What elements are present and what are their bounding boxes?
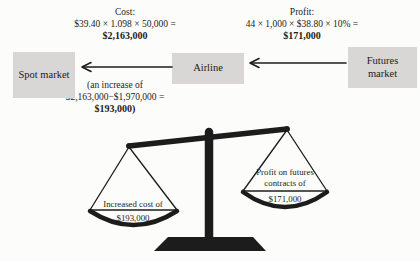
right-pan-text-line2: contracts of <box>264 178 305 188</box>
hedging-figure: Cost: $39.40 × 1.098 × 50,000 = $2,163,0… <box>0 0 420 261</box>
right-pan-amount: $171,000 <box>269 194 303 204</box>
balance-scale-icon <box>90 126 327 251</box>
left-pan-amount: $193,000 <box>117 213 151 223</box>
left-pan-text: Increased cost of <box>103 199 163 209</box>
arrow-futures-to-airline <box>250 59 346 68</box>
arrow-airline-to-spot <box>82 63 172 72</box>
right-pan-text-line1: Profit on futures <box>256 167 314 177</box>
scale-base <box>154 237 266 251</box>
scale-and-arrows-graphic: Increased cost of $193,000 Profit on fut… <box>0 0 420 261</box>
